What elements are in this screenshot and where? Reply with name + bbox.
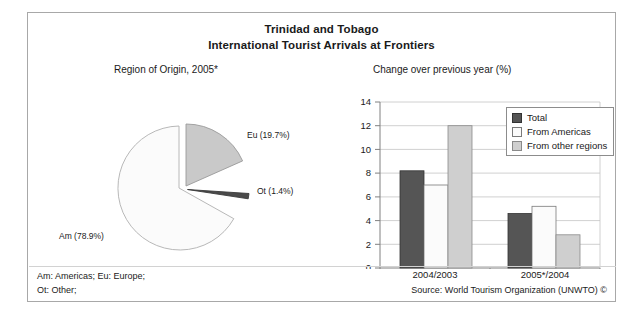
source-attribution: Source: World Tourism Organization (UNWT… [411, 285, 607, 295]
pie-label-am: Am (78.9%) [59, 231, 104, 241]
y-tick-label: 14 [360, 96, 371, 107]
bar-from-americas-2005-2004 [532, 206, 556, 268]
figure-panel: Trinidad and Tobago International Touris… [27, 12, 616, 302]
legend-swatch-icon [512, 127, 522, 137]
pie-chart-subtitle: Region of Origin, 2005* [114, 64, 218, 75]
footer-separator [29, 266, 616, 267]
y-tick-label: 12 [360, 120, 371, 131]
legend-item-from-americas: From Americas [512, 126, 607, 137]
legend-label: From Americas [527, 126, 591, 137]
figure-title-line-1: Trinidad and Tobago [28, 23, 615, 35]
y-tick-label: 2 [366, 239, 371, 250]
bar-from-other-regions-2004-2003 [448, 126, 472, 268]
legend-label: Total [527, 112, 547, 123]
pie-label-ot: Ot (1.4%) [257, 186, 293, 196]
pie-chart: Eu (19.7%) Ot (1.4%) Am (78.9%) [28, 79, 328, 259]
legend-item-from-other-regions: From other regions [512, 140, 607, 151]
y-tick-label: 10 [360, 144, 371, 155]
legend-label: From other regions [527, 140, 607, 151]
bar-from-other-regions-2005-2004 [556, 235, 580, 268]
y-tick-label: 6 [366, 191, 371, 202]
bar-total-2005-2004 [508, 214, 532, 269]
bar-from-americas-2004-2003 [424, 185, 448, 268]
pie-label-eu: Eu (19.7%) [247, 130, 290, 140]
abbreviation-note-line-1: Am: Americas; Eu: Europe; [37, 271, 145, 281]
abbreviation-note-line-2: Ot: Other; [37, 285, 77, 295]
legend-swatch-icon [512, 113, 522, 123]
bar-total-2004-2003 [400, 171, 424, 268]
legend-swatch-icon [512, 141, 522, 151]
figure-title-line-2: International Tourist Arrivals at Fronti… [28, 39, 615, 51]
bar-chart-legend: Total From Americas From other regions [506, 107, 614, 156]
pie-slice-eu [186, 124, 243, 186]
bar-chart-subtitle: Change over previous year (%) [373, 64, 511, 75]
bar-chart-y-tick-labels: 0 2 4 6 8 10 12 14 [360, 96, 371, 269]
x-tick-label-2004-2003: 2004/2003 [380, 269, 490, 280]
bar-chart: 0 2 4 6 8 10 12 14 [328, 79, 617, 269]
pie-slice-ot [188, 190, 250, 199]
y-tick-label: 4 [366, 215, 371, 226]
legend-item-total: Total [512, 112, 607, 123]
y-tick-label: 8 [366, 167, 371, 178]
x-tick-label-2005-2004: 2005*/2004 [490, 269, 600, 280]
bar-chart-y-ticks [375, 102, 380, 268]
